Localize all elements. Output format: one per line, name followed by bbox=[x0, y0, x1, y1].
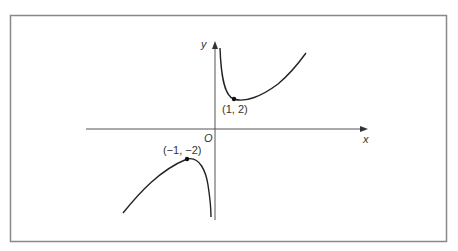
min-point-label: (1, 2) bbox=[222, 103, 248, 115]
max-point-label: (−1, −2) bbox=[163, 144, 202, 156]
x-axis-arrow-icon bbox=[360, 126, 368, 132]
origin-label: O bbox=[204, 132, 213, 144]
y-axis-arrow-icon bbox=[212, 41, 218, 49]
x-axis bbox=[86, 126, 368, 132]
min-point-marker bbox=[232, 97, 236, 101]
graph-figure: y x O (1, 2) (−1, −2) bbox=[0, 0, 458, 251]
curve-upper-branch bbox=[220, 48, 306, 100]
max-point-marker bbox=[185, 157, 189, 161]
curve-lower-branch bbox=[123, 159, 211, 217]
y-axis-label: y bbox=[200, 38, 208, 50]
x-axis-label: x bbox=[362, 133, 369, 145]
y-axis bbox=[212, 41, 218, 220]
